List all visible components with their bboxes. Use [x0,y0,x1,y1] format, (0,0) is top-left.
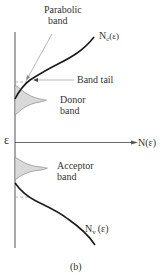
parabolic-band-label: Parabolic band [44,4,82,26]
nv-label-sub: v [92,228,96,236]
nv-curve [15,183,95,245]
donor-band-label-line2: band [60,105,86,116]
figure-caption: (b) [70,261,82,272]
parabolic-band-label-line1: Parabolic [44,4,82,15]
acceptor-band-shape [15,157,47,180]
dos-axis-arrowhead [131,141,138,145]
acceptor-band-label: Acceptor band [57,160,94,182]
parabolic-band-pointer [27,34,52,79]
band-tail-label: Band tail [77,74,113,85]
acceptor-band-label-line1: Acceptor [57,160,94,171]
energy-axis-label: ε [4,135,9,146]
dos-axis-label: N(ε) [138,137,156,148]
acceptor-band-label-line2: band [57,171,94,182]
nc-label: Nc(ε) [99,30,119,45]
nv-label-arg: (ε) [98,223,109,234]
nv-label: Nv (ε) [85,223,109,238]
nc-curve [15,37,94,99]
nc-label-arg: (ε) [109,31,119,41]
donor-band-label: Donor band [60,94,86,116]
donor-band-label-line1: Donor [60,94,86,105]
donor-band-shape [15,85,46,115]
parabolic-band-label-line2: band [44,15,82,26]
